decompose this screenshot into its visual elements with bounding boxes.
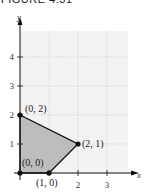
y-tick-4: 4 [10,52,15,62]
x-tick-2: 2 [76,180,81,190]
label-point-0-0: (0, 0) [22,157,44,169]
label-point-1-0: (1, 0) [36,177,58,189]
label-point-2-1: (2, 1) [82,138,104,150]
point-0-2 [17,112,22,117]
x-axis-label: x [136,170,141,180]
y-tick-1: 1 [10,139,15,149]
y-axis-label: y [16,12,21,22]
x-tick-3: 3 [105,180,110,190]
point-1-0 [46,170,51,175]
label-point-0-2: (0, 2) [25,103,47,115]
point-0-0 [17,170,22,175]
point-2-1 [75,141,80,146]
y-tick-3: 3 [10,81,15,91]
y-tick-2: 2 [10,110,15,120]
chart: 2 3 1 2 3 4 x y (0, 2) (2, 1) (0, 0) (1,… [0,0,144,192]
